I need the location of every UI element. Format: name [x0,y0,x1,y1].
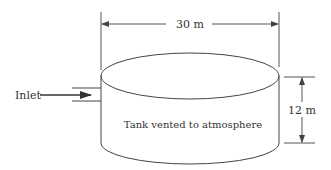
tank-bottom-arc [101,143,279,164]
inlet-label: Inlet [15,89,41,102]
tank: Tank vented to atmosphere [101,53,279,164]
height-label: 12 m [288,104,316,117]
diameter-dimension: 30 m [101,12,279,70]
height-dimension: 12 m [284,77,317,143]
inlet: Inlet [15,88,101,102]
tank-label: Tank vented to atmosphere [124,119,262,130]
tank-diagram: 30 m Tank vented to atmosphere 12 m Inle… [0,0,331,170]
diameter-label: 30 m [176,18,204,31]
tank-top-ellipse [101,53,279,99]
